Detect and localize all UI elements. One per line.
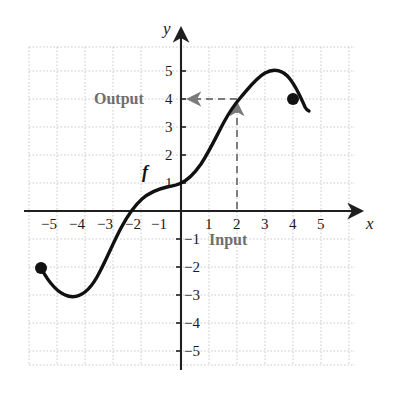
x-tick-label-2: 2 bbox=[233, 217, 241, 232]
x-tick-label-5: 5 bbox=[317, 217, 325, 232]
y-tick-label--2: −2 bbox=[184, 260, 200, 275]
x-tick-label-4: 4 bbox=[289, 217, 297, 232]
y-tick-label--4: −4 bbox=[184, 316, 200, 331]
x-tick-label--5: −5 bbox=[41, 217, 57, 232]
right-endpoint-dot bbox=[287, 93, 299, 105]
output-label: Output bbox=[94, 91, 144, 107]
y-tick-label-5: 5 bbox=[165, 64, 173, 79]
y-tick-label-4: 4 bbox=[165, 92, 173, 107]
y-tick-label-1: 1 bbox=[165, 176, 173, 191]
function-graph-figure: y x f Output Input −5 −4 −3 −2 −1 1 2 3 … bbox=[0, 0, 399, 393]
x-tick-label--2: −2 bbox=[125, 217, 141, 232]
y-tick-label-3: 3 bbox=[165, 120, 173, 135]
input-label: Input bbox=[209, 232, 247, 248]
x-tick-label--4: −4 bbox=[69, 217, 85, 232]
y-tick-label--3: −3 bbox=[184, 288, 200, 303]
y-axis-label: y bbox=[163, 20, 171, 37]
y-tick-label--1: −1 bbox=[184, 232, 200, 247]
x-tick-label-1: 1 bbox=[205, 217, 213, 232]
left-endpoint-dot bbox=[35, 262, 47, 274]
y-tick-label-2: 2 bbox=[165, 148, 173, 163]
y-tick-label--5: −5 bbox=[184, 344, 200, 359]
x-axis-label: x bbox=[366, 215, 374, 232]
function-curve-label: f bbox=[142, 163, 148, 181]
x-tick-label-3: 3 bbox=[261, 217, 269, 232]
function-curve bbox=[41, 70, 309, 296]
plot-canvas bbox=[0, 0, 399, 393]
x-tick-label--3: −3 bbox=[97, 217, 113, 232]
x-tick-label--1: −1 bbox=[151, 217, 167, 232]
